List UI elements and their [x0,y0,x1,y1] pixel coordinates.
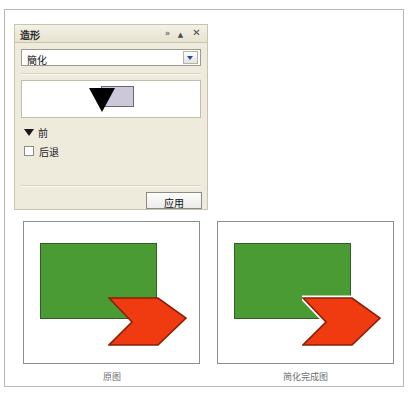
close-icon[interactable]: ✕ [190,26,203,40]
chevron-down-icon[interactable] [183,51,198,64]
preview-canvas [21,80,201,118]
back-checkbox[interactable] [24,146,34,156]
collapse-icon[interactable]: ▲ [174,28,187,42]
preview-triangle-shape [89,88,115,112]
simplified-preview-box [217,221,394,364]
triangle-down-icon[interactable] [24,129,34,136]
shape-dialog-panel: 造形 » ▲ ✕ 簡化 前 后退 应用 [14,24,208,210]
panel-title: 造形 [20,27,40,42]
simplified-caption: 简化完成图 [217,370,394,383]
red-arrow-shape [302,289,382,347]
original-caption: 原图 [23,370,200,383]
back-option-label: 后退 [39,144,59,159]
panel-divider-bottom [21,185,201,187]
apply-button-label: 应用 [147,195,201,210]
panel-divider-top [21,73,201,75]
mode-select-value: 簡化 [27,52,47,67]
red-arrow-shape [108,289,188,347]
apply-button[interactable]: 应用 [146,192,202,209]
expand-icon[interactable]: » [161,26,174,40]
panel-titlebar[interactable]: 造形 » ▲ ✕ [15,25,207,43]
mode-select[interactable]: 簡化 [21,49,201,66]
original-preview-box [23,221,200,364]
front-option-label: 前 [38,125,48,140]
page-frame: 造形 » ▲ ✕ 簡化 前 后退 应用 [4,9,404,387]
